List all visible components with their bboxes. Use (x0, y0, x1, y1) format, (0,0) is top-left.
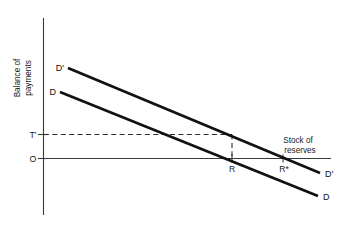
x-axis-label-line2: reserves (284, 146, 315, 155)
curve-label-d-right: D (323, 192, 330, 202)
y-axis-label-line2: payments (24, 60, 33, 96)
balance-of-payments-diagram: Balance of payments Stock of reserves T'… (0, 0, 350, 234)
x-axis-label-line1: Stock of (283, 136, 313, 145)
chart-background (0, 0, 350, 234)
point-label-r-star: R* (279, 164, 289, 174)
tick-label-t-prime: T' (29, 130, 36, 140)
curve-label-d-prime-right: D' (325, 169, 333, 179)
tick-label-origin: O (30, 154, 37, 164)
y-axis-label-line1: Balance of (13, 58, 22, 97)
curve-label-d-prime-left: D' (56, 63, 64, 73)
curve-label-d-left: D (50, 87, 57, 97)
point-label-r: R (229, 164, 235, 174)
